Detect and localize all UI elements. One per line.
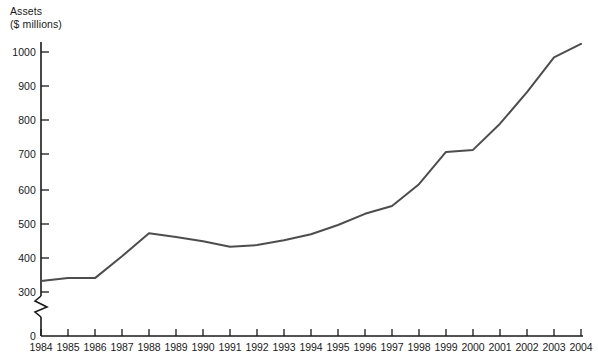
y-tick-label-500: 500 — [2, 218, 36, 230]
x-tick-label-1993: 1993 — [269, 341, 299, 353]
y-tick-label-600: 600 — [2, 184, 36, 196]
y-tick-label-1000: 1000 — [2, 46, 36, 58]
x-tick-label-1986: 1986 — [80, 341, 110, 353]
y-tick-label-300: 300 — [2, 286, 36, 298]
x-tick-label-2004: 2004 — [566, 341, 596, 353]
chart-plot-area — [0, 0, 598, 363]
y-tick-label-400: 400 — [2, 252, 36, 264]
x-tick-label-1992: 1992 — [242, 341, 272, 353]
x-tick-label-2002: 2002 — [512, 341, 542, 353]
x-tick-label-1998: 1998 — [404, 341, 434, 353]
x-tick-label-1996: 1996 — [350, 341, 380, 353]
chart-axes — [35, 42, 583, 336]
x-tick-label-1997: 1997 — [377, 341, 407, 353]
y-tick-label-800: 800 — [2, 114, 36, 126]
x-axis-ticks — [41, 329, 581, 336]
x-tick-label-1994: 1994 — [296, 341, 326, 353]
x-tick-label-1999: 1999 — [431, 341, 461, 353]
y-tick-label-700: 700 — [2, 148, 36, 160]
y-tick-label-900: 900 — [2, 80, 36, 92]
x-tick-label-1988: 1988 — [134, 341, 164, 353]
assets-line-chart: Assets($ millions) — [0, 0, 598, 363]
x-tick-label-2000: 2000 — [458, 341, 488, 353]
x-tick-label-1995: 1995 — [323, 341, 353, 353]
x-tick-label-1984: 1984 — [26, 341, 56, 353]
x-tick-label-1987: 1987 — [107, 341, 137, 353]
x-tick-label-1990: 1990 — [188, 341, 218, 353]
y-axis-ticks — [41, 52, 49, 292]
x-tick-label-1985: 1985 — [53, 341, 83, 353]
assets-data-line — [41, 44, 581, 281]
x-tick-label-1991: 1991 — [215, 341, 245, 353]
x-tick-label-1989: 1989 — [161, 341, 191, 353]
x-tick-label-2001: 2001 — [485, 341, 515, 353]
y-axis-break-zigzag — [35, 296, 47, 317]
x-tick-label-2003: 2003 — [539, 341, 569, 353]
